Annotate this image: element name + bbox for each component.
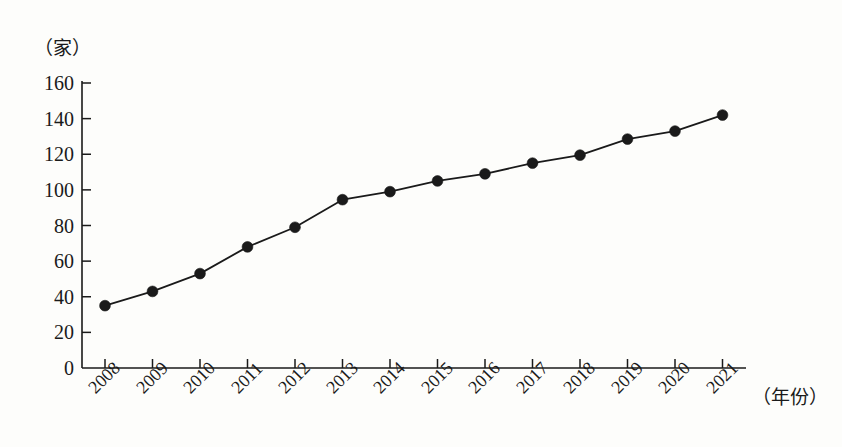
data-point-marker <box>527 158 538 169</box>
data-point-marker <box>575 150 586 161</box>
data-point-marker <box>432 176 443 187</box>
plot-area <box>0 0 842 447</box>
data-point-marker <box>337 194 348 205</box>
y-axis-ticks <box>82 83 91 332</box>
data-point-marker <box>242 241 253 252</box>
data-point-marker <box>290 222 301 233</box>
data-point-marker <box>480 168 491 179</box>
x-axis-ticks <box>105 359 723 368</box>
data-point-marker <box>100 300 111 311</box>
data-point-marker <box>385 186 396 197</box>
axis-lines <box>82 81 746 368</box>
data-markers <box>100 110 728 311</box>
data-point-marker <box>670 126 681 137</box>
data-point-marker <box>195 268 206 279</box>
data-point-marker <box>717 110 728 121</box>
data-point-marker <box>147 286 158 297</box>
line-chart: （家） （年份） 020406080100120140160 200820092… <box>0 0 842 447</box>
data-point-marker <box>622 134 633 145</box>
